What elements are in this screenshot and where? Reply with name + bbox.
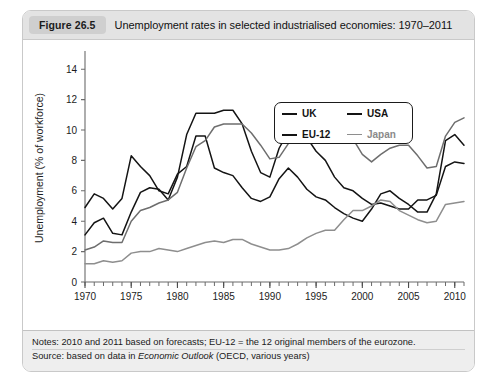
legend-label-usa: USA bbox=[367, 108, 388, 119]
x-tick-label: 2000 bbox=[351, 291, 374, 302]
figure-header: Figure 26.5 Unemployment rates in select… bbox=[23, 11, 474, 40]
x-tick-label: 1985 bbox=[213, 291, 236, 302]
x-tick-label: 1980 bbox=[166, 291, 189, 302]
source-suffix: (OECD, various years) bbox=[213, 351, 309, 361]
chart-legend: UK USA EU-12 Japan bbox=[274, 102, 413, 144]
y-tick-label: 8 bbox=[71, 155, 77, 166]
legend-item-eu12: EU-12 bbox=[282, 129, 347, 140]
legend-item-japan: Japan bbox=[347, 129, 412, 140]
figure-card: Figure 26.5 Unemployment rates in select… bbox=[22, 10, 475, 372]
figure-title: Unemployment rates in selected industria… bbox=[115, 19, 453, 31]
screenshot-root: Figure 26.5 Unemployment rates in select… bbox=[0, 0, 497, 383]
y-tick-label: 4 bbox=[71, 216, 77, 227]
y-tick-label: 12 bbox=[66, 94, 78, 105]
x-tick-label: 1970 bbox=[74, 291, 97, 302]
legend-item-uk: UK bbox=[282, 108, 347, 119]
y-tick-label: 6 bbox=[71, 185, 77, 196]
source-line: Source: based on data in Economic Outloo… bbox=[32, 350, 466, 364]
legend-item-usa: USA bbox=[347, 108, 412, 119]
legend-label-japan: Japan bbox=[367, 129, 396, 140]
legend-row-1: UK USA bbox=[275, 103, 412, 124]
y-axis-title: Unemployment (% of workforce) bbox=[33, 93, 45, 243]
x-tick-label: 2005 bbox=[397, 291, 420, 302]
legend-line-icon-eu12 bbox=[282, 134, 297, 136]
source-prefix: Source: based on data in bbox=[32, 351, 138, 361]
legend-line-icon-usa bbox=[347, 113, 362, 115]
legend-line-icon-japan bbox=[347, 134, 362, 135]
unemployment-line-chart: 0246810121419701975198019851990199520002… bbox=[23, 40, 475, 332]
figure-notes: Notes: 2010 and 2011 based on forecasts;… bbox=[23, 330, 474, 371]
y-tick-label: 10 bbox=[66, 125, 78, 136]
series-line-usa bbox=[85, 135, 464, 222]
y-tick-label: 2 bbox=[71, 246, 77, 257]
x-tick-label: 2010 bbox=[444, 291, 467, 302]
legend-row-2: EU-12 Japan bbox=[275, 124, 412, 145]
notes-divider bbox=[32, 349, 465, 350]
figure-number-badge: Figure 26.5 bbox=[29, 16, 106, 34]
x-tick-label: 1975 bbox=[120, 291, 143, 302]
legend-label-uk: UK bbox=[302, 108, 316, 119]
source-publication: Economic Outlook bbox=[138, 351, 213, 361]
legend-line-icon-uk bbox=[282, 113, 297, 115]
y-tick-label: 14 bbox=[66, 64, 78, 75]
y-tick-label: 0 bbox=[71, 277, 77, 288]
x-tick-label: 1990 bbox=[259, 291, 282, 302]
x-tick-label: 1995 bbox=[305, 291, 328, 302]
notes-line: Notes: 2010 and 2011 based on forecasts;… bbox=[32, 336, 466, 350]
legend-label-eu12: EU-12 bbox=[302, 129, 330, 140]
chart-plot-area: 0246810121419701975198019851990199520002… bbox=[23, 40, 474, 332]
